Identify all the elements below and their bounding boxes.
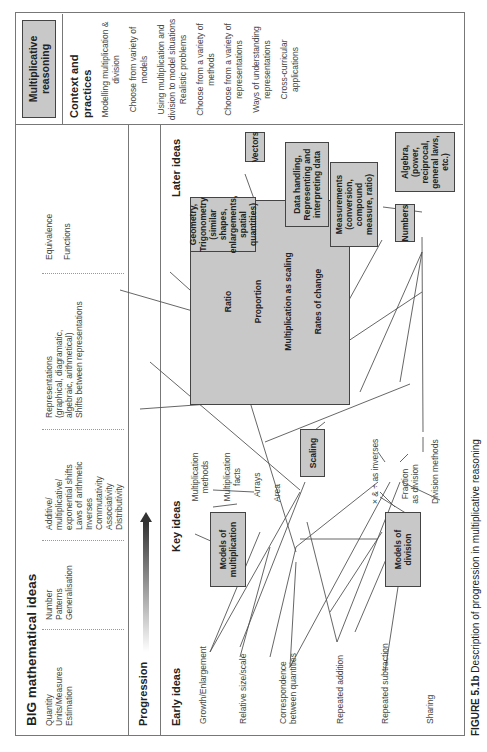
early-idea-sharing: Sharing xyxy=(425,695,435,724)
numbers-box: Numbers xyxy=(395,204,415,242)
context-item: Realistic problems xyxy=(178,17,189,122)
context-item: Modelling multiplication & division xyxy=(100,17,122,122)
multiplication-scaling-label: Multiplication as scaling xyxy=(283,199,293,404)
label-multiplication-facts: Multiplication facts xyxy=(222,447,242,507)
context-list: Modelling multiplication & division Choo… xyxy=(100,17,301,122)
context-item: Ways of understanding representations xyxy=(251,17,273,122)
label-multiplication-methods: Multiplication methods xyxy=(190,447,210,507)
label-division-methods: Division methods xyxy=(430,439,440,504)
models-of-multiplication-box: Models of multiplication xyxy=(210,512,246,587)
label-area: Area xyxy=(272,484,282,502)
vectors-box: Vectors xyxy=(245,132,265,162)
early-idea-growth: Growth/Enlargement xyxy=(198,646,208,724)
early-idea-relative-size: Relative size/scale xyxy=(238,654,248,724)
early-idea-correspondence: Correspondence between quantities xyxy=(278,634,298,724)
caption-label: FIGURE 5.1b xyxy=(470,675,481,736)
geometry-box: Geometry, Trigonometry (similar shapes, … xyxy=(190,197,256,252)
label-inverses: × & ÷ as inverses xyxy=(370,439,380,504)
early-idea-repeated-subtraction: Repeated subtraction xyxy=(380,643,390,724)
context-item: Choose from a variety of methods xyxy=(195,17,217,122)
context-item: Using multiplication and division to mod… xyxy=(156,17,178,122)
rates-of-change-label: Rates of change xyxy=(313,199,323,404)
context-item: Cross-curricular applications xyxy=(279,17,301,122)
data-handling-box: Data handling, Representing and interpre… xyxy=(285,142,329,227)
scaling-box: Scaling xyxy=(300,429,325,477)
early-idea-repeated-addition: Repeated addition xyxy=(335,655,345,724)
context-item: Choose from a variety of representations xyxy=(223,17,245,122)
context-item: Choose from variety of models xyxy=(128,17,150,122)
figure-caption: FIGURE 5.1b Description of progression i… xyxy=(470,439,481,736)
label-arrays: Arrays xyxy=(252,472,262,497)
figure-page: BIG mathematical ideas Quantity Units/Me… xyxy=(0,0,487,752)
algebra-box: Algebra, (power, reciprocal, general law… xyxy=(395,132,455,192)
measurements-box: Measurements (conversion, compound measu… xyxy=(330,162,378,247)
models-of-division-box: Models of division xyxy=(385,512,421,587)
label-fraction-division: Fraction as division xyxy=(400,464,420,504)
caption-text: Description of progression in multiplica… xyxy=(470,439,481,672)
